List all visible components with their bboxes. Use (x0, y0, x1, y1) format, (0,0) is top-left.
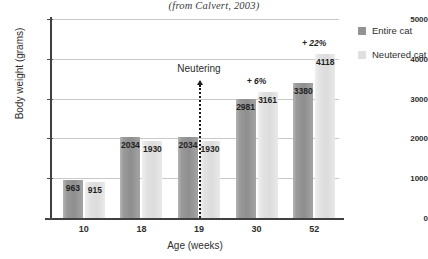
legend-swatch-icon (358, 27, 366, 35)
y-axis-tick-label: 3000 (386, 94, 428, 103)
y-axis-title: Body weight (grams) (14, 9, 25, 139)
bar-value-label: 2981 (236, 102, 256, 112)
y-axis-tick (47, 218, 53, 219)
chart-source-title: (from Calvert, 2003) (0, 0, 428, 11)
bar-value-label: 1930 (142, 144, 162, 154)
gridline (51, 19, 339, 20)
y-axis-tick-label: 2000 (386, 134, 428, 143)
bar-value-label: 1930 (200, 144, 220, 154)
legend-item[interactable]: Entire cat (358, 25, 426, 36)
neutering-dotted-line (199, 85, 201, 218)
pct-30-annotation: + 6% (232, 76, 282, 86)
legend-item[interactable]: Neutered cat (358, 49, 426, 60)
y-axis-tick-label: 1000 (386, 174, 428, 183)
bar-entire-52: 3380 (293, 83, 313, 218)
y-axis-tick (47, 178, 53, 179)
y-axis-tick (47, 19, 53, 20)
bar-neutered-30: 3161 (258, 92, 278, 218)
bar-entire-18: 2034 (120, 137, 140, 218)
bar-value-label: 2034 (120, 140, 140, 150)
bar-value-label: 3161 (258, 95, 278, 105)
bar-value-label: 915 (85, 185, 105, 195)
bar-value-label: 4118 (315, 57, 335, 67)
y-axis-tick (47, 138, 53, 139)
bar-entire-10: 963 (63, 180, 83, 218)
chart-figure: (from Calvert, 2003) Body weight (grams)… (0, 0, 428, 259)
plot-area: 96391520341930203419302981316133804118+ … (51, 19, 339, 218)
bar-value-label: 963 (63, 183, 83, 193)
bar-value-label: 2034 (178, 140, 198, 150)
x-axis-line (45, 218, 344, 220)
y-axis-tick-label: 5000 (386, 15, 428, 24)
x-axis-title: Age (weeks) (0, 240, 390, 251)
neutering-label: Neutering (154, 63, 244, 74)
bar-neutered-52: 4118 (315, 54, 335, 218)
bar-entire-30: 2981 (236, 99, 256, 218)
legend-label: Neutered cat (372, 49, 426, 60)
y-axis-tick (47, 99, 53, 100)
x-axis-tick-label: 19 (174, 224, 224, 234)
legend-label: Entire cat (372, 25, 412, 36)
neutering-arrow-icon (197, 80, 203, 85)
legend-swatch-icon (358, 51, 366, 59)
x-axis-tick-label: 30 (232, 224, 282, 234)
x-axis-tick-label: 10 (59, 224, 109, 234)
chart-legend: Entire catNeutered cat (358, 25, 426, 73)
bar-neutered-19: 1930 (200, 141, 220, 218)
x-axis-tick-label: 52 (289, 224, 339, 234)
bar-neutered-10: 915 (85, 182, 105, 218)
x-axis-tick-label: 18 (116, 224, 166, 234)
gridline (51, 59, 339, 60)
bar-value-label: 3380 (293, 86, 313, 96)
bar-neutered-18: 1930 (142, 141, 162, 218)
bar-entire-19: 2034 (178, 137, 198, 218)
y-axis-tick-label: 0 (386, 214, 428, 223)
y-axis-tick (47, 59, 53, 60)
pct-52-annotation: + 22% (289, 38, 339, 48)
